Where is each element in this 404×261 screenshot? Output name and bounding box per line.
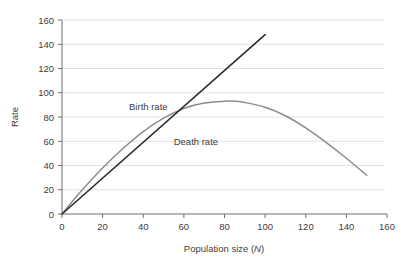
y-tick-label-80: 80 (43, 112, 54, 123)
y-tick-label-40: 40 (43, 160, 54, 171)
y-axis-tick-labels: 020406080100120140160 (38, 15, 54, 220)
series-label-death-rate: Death rate (174, 136, 218, 147)
y-tick-label-20: 20 (43, 184, 54, 195)
gridlines (62, 20, 385, 190)
series-label-birth-rate: Birth rate (129, 101, 168, 112)
x-tick-label-60: 60 (179, 221, 190, 232)
y-tick-label-120: 120 (38, 63, 54, 74)
x-tick-label-0: 0 (59, 221, 64, 232)
series-line-death-rate (62, 35, 265, 214)
y-axis-ticks (58, 20, 62, 214)
x-tick-label-140: 140 (338, 221, 354, 232)
x-axis-ticks (62, 214, 387, 218)
x-tick-label-120: 120 (298, 221, 314, 232)
y-tick-label-140: 140 (38, 39, 54, 50)
y-tick-label-0: 0 (49, 209, 54, 220)
y-tick-label-100: 100 (38, 87, 54, 98)
rate-vs-population-chart: 020406080100120140160 020406080100120140… (0, 0, 404, 261)
x-tick-label-100: 100 (257, 221, 273, 232)
y-tick-label-160: 160 (38, 15, 54, 26)
chart-container: 020406080100120140160 020406080100120140… (0, 0, 404, 261)
x-axis-tick-labels: 020406080100120140160 (59, 221, 395, 232)
x-tick-label-40: 40 (138, 221, 149, 232)
y-axis-title: Rate (9, 107, 20, 127)
series-line-birth-rate (62, 101, 367, 214)
x-axis-title: Population size (N) (184, 243, 264, 254)
y-tick-label-60: 60 (43, 136, 54, 147)
x-tick-label-160: 160 (379, 221, 395, 232)
x-tick-label-20: 20 (97, 221, 108, 232)
x-tick-label-80: 80 (219, 221, 230, 232)
